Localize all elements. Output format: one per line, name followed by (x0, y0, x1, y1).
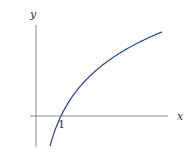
log-curve-plot: y x 1 (0, 0, 188, 160)
ln-curve (50, 32, 162, 146)
tick-label-one: 1 (58, 118, 65, 131)
y-axis-label: y (29, 8, 37, 21)
x-axis-label: x (177, 110, 184, 123)
